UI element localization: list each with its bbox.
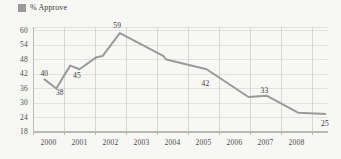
x-tick-label: 2000 — [34, 139, 64, 147]
y-tick-label: 60 — [12, 27, 28, 35]
data-point-value-label: 25 — [321, 120, 329, 128]
data-point-value-label: 33 — [261, 87, 269, 95]
data-point-value-label: 45 — [73, 72, 81, 80]
x-tick-label: 2006 — [220, 139, 250, 147]
data-point-value-label: 40 — [40, 70, 48, 78]
x-tick-label: 2001 — [65, 139, 95, 147]
data-point-value-label: 38 — [56, 89, 64, 97]
y-tick-label: 36 — [12, 85, 28, 93]
x-tick-label: 2005 — [189, 139, 219, 147]
y-tick-label: 48 — [12, 56, 28, 64]
plot-area — [0, 0, 341, 159]
y-tick-label: 54 — [12, 41, 28, 49]
x-tick-label: 2008 — [282, 139, 312, 147]
plot-svg — [0, 0, 341, 159]
y-tick-label: 24 — [12, 114, 28, 122]
x-tick-label: 2002 — [96, 139, 126, 147]
data-point-value-label: 59 — [113, 22, 121, 30]
x-tick-label: 2004 — [158, 139, 188, 147]
data-point-value-label: 42 — [202, 80, 210, 88]
y-tick-label: 42 — [12, 70, 28, 78]
approval-line-chart: % Approve 1824303642485460 2000200120022… — [0, 0, 341, 159]
y-tick-label: 18 — [12, 128, 28, 136]
axis-lines — [33, 27, 328, 135]
x-tick-label: 2003 — [127, 139, 157, 147]
x-tick-label: 2007 — [251, 139, 281, 147]
y-tick-label: 30 — [12, 99, 28, 107]
